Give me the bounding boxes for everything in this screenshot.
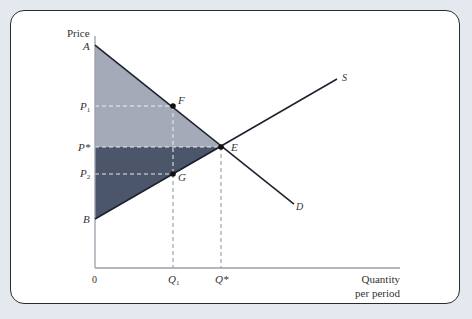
origin-label: 0 [92,274,97,285]
label-f: F [177,94,185,106]
x-axis-label-line2: per period [355,287,400,299]
label-p2: P2 [79,167,91,181]
label-demand: D [295,201,304,212]
x-axis-label-line1: Quantity [362,273,401,285]
label-pstar: P* [77,141,91,153]
y-axis-label: Price [67,27,90,39]
point-e [218,144,224,150]
label-g: G [178,171,186,183]
supply-demand-diagram: Price 0 Quantity per period A P1 P* P2 B… [0,0,472,319]
label-qstar: Q* [215,273,229,285]
label-q1: Q1 [168,273,180,287]
label-p1: P1 [79,100,91,114]
label-b: B [83,213,90,225]
label-e: E [230,141,238,153]
point-f [170,103,176,109]
label-supply: S [342,72,347,83]
label-a: A [82,40,90,52]
point-g [170,171,176,177]
